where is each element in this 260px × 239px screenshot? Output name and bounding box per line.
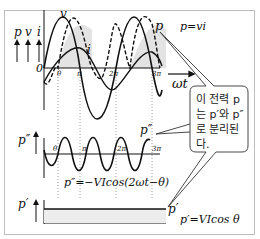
middle-plot: p″ p″ θ π 2π 3π p″=−VIcos(2ωt−θ) [18,123,169,189]
axis-label-v: v [25,25,32,39]
callout-line-3: 로 분리된 [196,123,240,136]
callout-line-4: 다. [196,138,210,151]
top-plot: p v i 0 v i p p=vi θ π 2π 3π ωt [14,7,206,200]
bottom-plot: p′ p′ p′=VIcos θ [18,197,240,226]
tick-3pi: 3π [152,70,161,78]
axis-label-p: p [14,25,22,39]
mid-tick-theta: θ [53,145,58,153]
curve-label-v: v [60,7,67,21]
power-decomposition-diagram: p v i 0 v i p p=vi θ π 2π 3π ωt p″ p″ θ … [0,0,260,239]
callout-line-1: 이 전력 p [196,93,240,106]
formula-p-vi: p=vi [180,20,206,33]
curve-label-i: i [87,43,91,57]
tick-theta: θ [57,70,62,78]
formula-p-prime: p′=VIcos θ [180,213,240,226]
curve-label-p: p [155,18,164,33]
axis-label-p-double-prime: p″ [18,133,31,147]
formula-p-double-prime: p″=−VIcos(2ωt−θ) [64,176,169,189]
tick-2pi: 2π [108,70,118,78]
mid-tick-3pi: 3π [152,145,161,153]
callout-line-2: 는 p′와 p″ [196,108,244,121]
omega-t-label: ωt [172,76,189,91]
curve-label-p-double-prime: p″ [140,123,153,137]
callout-bubble: 이 전력 p 는 p′와 p″ 로 분리된 다. [156,32,248,207]
origin-label: 0 [36,62,43,75]
mid-tick-2pi: 2π [116,145,126,153]
tick-pi: π [76,70,82,78]
mid-tick-pi: π [81,145,87,153]
axis-label-i: i [37,25,41,39]
axis-label-p-prime: p′ [18,197,29,211]
